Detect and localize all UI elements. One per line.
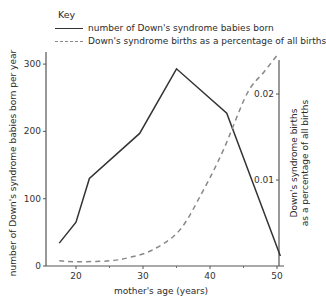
y-axis-left-label: number of Down's syndrome babies born pe… [8, 50, 18, 276]
y-left-tick-label: 100 [24, 194, 41, 204]
y-left-tick-label: 0 [35, 261, 41, 271]
x-tick-label: 20 [70, 271, 82, 281]
y-left-tick-label: 200 [24, 126, 41, 136]
x-tick-label: 50 [271, 271, 283, 281]
y-right-tick-label: 0.01 [254, 175, 274, 185]
y-axis-right-label-line1: Down's syndrome births [289, 100, 300, 226]
y-left-tick-label: 300 [24, 59, 41, 69]
x-axis-label: mother's age (years) [114, 286, 208, 296]
x-tick-label: 40 [204, 271, 216, 281]
series-count-line [59, 69, 280, 256]
y-axis-right-label: Down's syndrome births as a percentage o… [289, 100, 311, 226]
y-right-tick-label: 0.02 [254, 89, 274, 99]
y-axis-right-label-line2: as a percentage of all births [300, 100, 311, 226]
x-tick-label: 30 [137, 271, 149, 281]
